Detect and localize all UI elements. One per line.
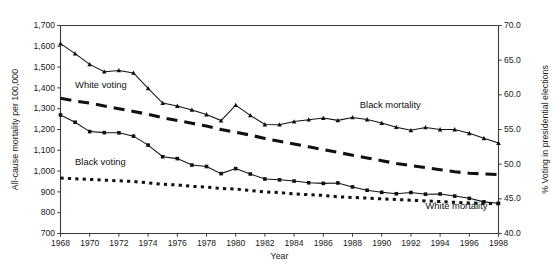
data-point-marker [205,165,209,169]
data-point-marker [395,192,399,196]
data-point-marker [219,172,223,176]
x-tick-label: 1984 [285,238,304,248]
y-tick-label: 700 [41,228,56,238]
data-point-marker [73,120,77,124]
data-point-marker [307,181,311,185]
data-point-marker [249,172,253,176]
y-tick-label: 1,600 [33,41,55,51]
data-point-marker [424,192,428,196]
data-point-marker [132,134,136,138]
x-tick-label: 1980 [226,238,245,248]
y2-tick-label: 50.0 [504,159,521,169]
chart-figure: 7008009001,0001,1001,2001,3001,4001,5001… [0,0,560,266]
data-point-marker [117,131,121,135]
y-tick-label: 1,100 [33,145,55,155]
x-tick-label: 1992 [401,238,420,248]
y-tick-label: 1,400 [33,83,55,93]
x-tick-label: 1982 [255,238,274,248]
data-point-marker [190,163,194,167]
data-point-marker [438,192,442,196]
y2-tick-label: 40.0 [504,228,521,238]
x-tick-label: 1990 [372,238,391,248]
data-point-marker [263,177,267,181]
data-point-marker [351,185,355,189]
y-tick-label: 1,200 [33,124,55,134]
y2-tick-label: 45.0 [504,193,521,203]
data-point-marker [497,202,501,206]
series-label-white-mortality: White mortality [426,200,488,211]
data-point-marker [322,182,326,186]
x-tick-label: 1970 [80,238,99,248]
y-tick-label: 1,000 [33,166,55,176]
x-tick-label: 1986 [314,238,333,248]
mortality-voting-line-chart: 7008009001,0001,1001,2001,3001,4001,5001… [0,0,560,266]
series-label-black-mortality: Black mortality [360,99,421,110]
x-tick-label: 1988 [343,238,362,248]
data-point-marker [365,188,369,192]
x-tick-label: 1972 [109,238,128,248]
y2-tick-label: 55.0 [504,124,521,134]
x-tick-label: 1968 [51,238,70,248]
x-axis-title: Year [271,251,289,261]
y-tick-label: 1,500 [33,62,55,72]
top-cropped-caption [0,0,560,12]
y-tick-label: 800 [41,207,56,217]
data-point-marker [146,143,150,147]
data-point-marker [234,167,238,171]
data-point-marker [278,178,282,182]
data-point-marker [59,113,63,117]
y-tick-label: 1,300 [33,103,55,113]
y2-tick-label: 70.0 [504,20,521,30]
x-tick-label: 1996 [460,238,479,248]
data-point-marker [336,181,340,185]
data-point-marker [88,130,92,134]
y-tick-label: 900 [41,187,56,197]
series-label-white-voting: White voting [75,79,127,90]
data-point-marker [176,157,180,161]
x-tick-label: 1974 [139,238,158,248]
data-point-marker [103,131,107,135]
y-axis-title: All-cause mortality per 100,000 [10,69,20,190]
data-point-marker [380,191,384,195]
data-point-marker [292,179,296,183]
x-tick-label: 1978 [197,238,216,248]
data-point-marker [161,155,165,159]
y2-axis-title: % Voting in presidential elections [540,65,550,194]
y2-tick-label: 60.0 [504,89,521,99]
y-tick-label: 1,700 [33,20,55,30]
chart-background [0,0,560,266]
data-point-marker [453,194,457,198]
series-label-black-voting: Black voting [75,156,126,167]
x-tick-label: 1976 [168,238,187,248]
x-tick-label: 1998 [489,238,508,248]
data-point-marker [409,191,413,195]
x-tick-label: 1994 [431,238,450,248]
y2-tick-label: 65.0 [504,55,521,65]
